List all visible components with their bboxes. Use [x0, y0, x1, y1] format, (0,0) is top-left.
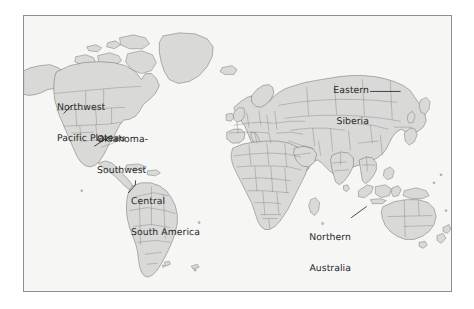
land-new-zealand-n — [443, 224, 451, 233]
land-islet-g — [445, 210, 447, 212]
annotation-line-1: Central — [131, 197, 200, 207]
land-islet-f — [433, 182, 435, 184]
land-tasmania — [419, 241, 427, 248]
land-islet-d — [194, 269, 196, 271]
annotation-line-1: Eastern — [316, 86, 369, 96]
annotation-line-1: Northern — [296, 233, 351, 243]
land-india — [331, 152, 354, 185]
annotation-line-2: Southwest — [97, 166, 148, 176]
land-falklands — [164, 261, 170, 266]
land-iceland — [220, 66, 237, 75]
land-sri-lanka — [344, 185, 350, 192]
land-australia — [381, 200, 436, 240]
land-kamchatka — [419, 97, 430, 114]
land-iberia — [227, 129, 245, 143]
land-islet-e — [440, 174, 442, 176]
land-arctic-islet-2 — [107, 41, 121, 49]
land-arctic-islet-1 — [87, 45, 102, 52]
land-philippines — [383, 167, 394, 180]
annotation-central-south-america: Central South America — [131, 176, 200, 259]
annotation-line-1: Northwest — [57, 103, 125, 113]
land-greenland — [159, 33, 213, 84]
land-sulawesi — [391, 186, 401, 197]
land-new-guinea — [403, 188, 429, 199]
world-map-figure: Northwest Pacific Plateau Oklahoma- Sout… — [23, 15, 452, 292]
land-islet-c — [162, 265, 164, 267]
annotation-eastern-siberia: Eastern Siberia — [316, 65, 369, 148]
annotation-northern-australia: Northern Australia — [296, 212, 351, 292]
land-hispaniola — [147, 170, 160, 176]
land-south-georgia — [191, 264, 199, 269]
annotation-line-2: South America — [131, 228, 200, 238]
land-new-zealand-s — [437, 233, 446, 243]
land-islet-h — [81, 190, 83, 192]
annotation-line-2: Australia — [296, 264, 351, 274]
land-ellesmere-island — [120, 35, 150, 49]
land-java — [370, 199, 386, 204]
leader-northern-australia — [351, 207, 366, 218]
annotation-line-2: Siberia — [316, 117, 369, 127]
land-ireland — [226, 113, 234, 121]
annotation-line-1: Oklahoma- — [97, 135, 148, 145]
land-sumatra — [358, 185, 373, 198]
land-indochina — [359, 157, 376, 184]
land-borneo — [375, 185, 391, 198]
